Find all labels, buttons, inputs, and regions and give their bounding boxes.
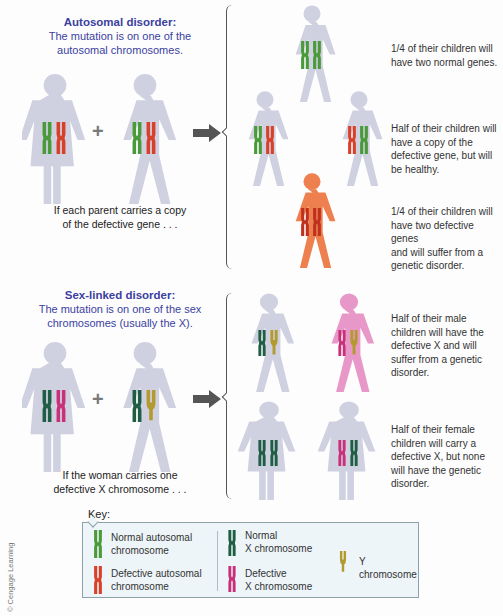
text-line: defective gene, but will (391, 149, 503, 163)
autosomal-subtitle-2: autosomal chromosomes. (20, 43, 220, 57)
text-line: will have the genetic (391, 464, 503, 478)
daughter-carrier-figure (318, 400, 380, 500)
defective-autosomal-chromosome-icon (93, 566, 103, 594)
son-normal-figure (238, 292, 300, 392)
text-line: Half of their female (391, 423, 503, 437)
sexlinked-heading: Sex-linked disorder: The mutation is on … (10, 288, 230, 330)
autosomal-caption-1: If each parent carries a copy (20, 203, 220, 217)
autosomal-subtitle-1: The mutation is on one of the (20, 29, 220, 43)
text-line: 1/4 of their children will (391, 205, 503, 219)
defective-autosomal-chromosome-icon (312, 208, 322, 236)
y-chromosome-icon (338, 551, 348, 573)
normal-autosomal-chromosome-icon (300, 41, 310, 69)
normal-autosomal-chromosome-icon (131, 122, 143, 154)
normal-x-chromosome-icon (41, 390, 53, 422)
normal-x-chromosome-icon (269, 440, 279, 466)
normal-autosomal-chromosome-icon (312, 41, 322, 69)
key-defective-autosomal-label: Defective autosomal chromosome (111, 567, 202, 593)
autosomal-heading: Autosomal disorder: The mutation is on o… (20, 15, 220, 57)
text-line: children will have the (391, 326, 503, 340)
defective-autosomal-chromosome-icon (265, 126, 275, 154)
outcome-normal-text: 1/4 of their children will have two norm… (391, 42, 503, 69)
y-chromosome-icon (269, 330, 279, 356)
key-divider (217, 531, 218, 591)
outcome-female-text: Half of their female children will carry… (391, 423, 503, 491)
outcome-male-text: Half of their male children will have th… (391, 312, 503, 380)
autosomal-brace (226, 5, 234, 269)
key-normal-x-label: Normal X chromosome (245, 529, 312, 555)
normal-autosomal-chromosome-icon (253, 126, 263, 154)
normal-x-chromosome-icon (257, 440, 267, 466)
daughter-normal-figure (238, 400, 300, 500)
text-line: disorder. (391, 477, 503, 491)
defective-x-chromosome-icon (337, 330, 347, 356)
son-affected-figure (318, 292, 380, 392)
text-line: genetic disorder. (391, 259, 503, 273)
plus-sign: + (92, 120, 104, 143)
text-line: disorder. (391, 366, 503, 380)
right-arrow-icon (193, 124, 223, 142)
defective-autosomal-chromosome-icon (145, 122, 157, 154)
sexlinked-father-figure (112, 340, 178, 472)
defective-autosomal-chromosome-icon (300, 208, 310, 236)
text-line: X chromosome (245, 580, 312, 593)
key-normal-autosomal-label: Normal autosomal chromosome (111, 531, 192, 557)
right-arrow-icon (193, 390, 223, 408)
key-defective-x-label: Defective X chromosome (245, 567, 312, 593)
text-line: chromosome (111, 544, 192, 557)
plus-sign: + (92, 388, 104, 411)
normal-x-chromosome-icon (227, 530, 237, 556)
text-line: have two normal genes. (391, 56, 503, 70)
defective-x-chromosome-icon (55, 390, 67, 422)
text-line: be healthy. (391, 163, 503, 177)
text-line: Half of their children will (391, 122, 503, 136)
outcome-affected-text: 1/4 of their children will have two defe… (391, 205, 503, 273)
normal-autosomal-chromosome-icon (359, 126, 369, 154)
normal-autosomal-chromosome-icon (41, 122, 53, 154)
normal-autosomal-chromosome-icon (93, 530, 103, 558)
defective-autosomal-chromosome-icon (55, 122, 67, 154)
text-line: chromosome (111, 580, 202, 593)
sexlinked-title: Sex-linked disorder: (10, 288, 230, 302)
y-chromosome-icon (349, 330, 359, 356)
defective-autosomal-chromosome-icon (347, 126, 357, 154)
text-line: 1/4 of their children will (391, 42, 503, 56)
child-affected-figure (283, 172, 341, 268)
text-line: defective X and will (391, 339, 503, 353)
sexlinked-caption: If the woman carries one defective X chr… (20, 468, 220, 496)
normal-x-chromosome-icon (131, 390, 143, 422)
key-y-label: Y chromosome (359, 555, 418, 581)
sexlinked-subtitle-2: chromosomes (usually the X). (10, 316, 230, 330)
sexlinked-mother-figure (22, 340, 88, 472)
autosomal-title: Autosomal disorder: (20, 15, 220, 29)
sexlinked-caption-1: If the woman carries one (20, 468, 220, 482)
y-chromosome-icon (145, 390, 157, 422)
copyright-credit: © Cengage Learning (6, 543, 15, 612)
text-line: X chromosome (245, 542, 312, 555)
text-line: Normal autosomal (111, 531, 192, 544)
text-line: Defective autosomal (111, 567, 202, 580)
outcome-carrier-text: Half of their children will have a copy … (391, 122, 503, 176)
text-line: suffer from a genetic (391, 353, 503, 367)
defective-x-chromosome-icon (227, 566, 237, 592)
text-line: Normal (245, 529, 312, 542)
normal-x-chromosome-icon (257, 330, 267, 356)
autosomal-caption-2: of the defective gene . . . (20, 217, 220, 231)
text-line: Defective (245, 567, 312, 580)
autosomal-caption: If each parent carries a copy of the def… (20, 203, 220, 231)
autosomal-father-figure (112, 72, 178, 204)
child-normal-figure (283, 4, 341, 102)
defective-x-chromosome-icon (337, 440, 347, 466)
text-line: have a copy of the (391, 136, 503, 150)
normal-x-chromosome-icon (349, 440, 359, 466)
key-box: Normal autosomal chromosome Defective au… (82, 522, 419, 598)
text-line: children will carry a (391, 437, 503, 451)
sexlinked-caption-2: defective X chromosome . . . (20, 482, 220, 496)
text-line: and will suffer from a (391, 246, 503, 260)
text-line: Half of their male (391, 312, 503, 326)
text-line: have two defective genes (391, 219, 503, 246)
sexlinked-subtitle-1: The mutation is on one of the sex (10, 302, 230, 316)
autosomal-mother-figure (22, 72, 88, 204)
text-line: defective X, but none (391, 450, 503, 464)
